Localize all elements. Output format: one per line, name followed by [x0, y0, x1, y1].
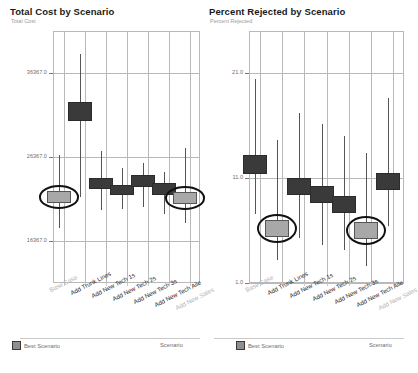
y-axis-tick-mark [245, 178, 249, 179]
y-axis-tick-label: 36367.0 [5, 69, 47, 75]
category-reference-line [282, 31, 283, 283]
legend-best-scenario-label: Best Scenario [24, 343, 60, 349]
y-axis-tick-label: 21.0 [201, 69, 243, 75]
whisker-line [80, 54, 81, 197]
x-axis-tick-mark [148, 283, 149, 286]
x-axis-tick-mark [371, 283, 372, 286]
chart-title-total-cost: Total Cost by Scenario [10, 6, 114, 17]
chart-panel-percent-rejected: Percent Rejected by Scenario Percent Rej… [204, 0, 408, 373]
scenario-bar[interactable] [243, 155, 267, 174]
legend-best-scenario-label: Best Scenario [248, 343, 284, 349]
y-axis-tick-mark [49, 241, 53, 242]
y-axis-tick-mark [245, 73, 249, 74]
chart-subtitle-total-cost: Total Cost [11, 18, 35, 24]
whisker-line [344, 136, 345, 250]
x-axis-caption-right: Scenario [369, 342, 392, 348]
x-axis-tick-mark [190, 283, 191, 286]
y-axis-tick-mark [49, 73, 53, 74]
best-scenario-swatch-icon [12, 341, 21, 350]
chart-panel-total-cost: Total Cost by Scenario Total Cost 36367.… [0, 0, 204, 373]
x-axis-tick-mark [393, 283, 394, 286]
category-reference-line [64, 31, 65, 283]
category-reference-line [169, 31, 170, 283]
whisker-line [322, 124, 323, 245]
whisker-line [299, 113, 300, 238]
scenario-bar[interactable] [332, 196, 356, 213]
y-axis-tick-mark [49, 157, 53, 158]
highlight-ellipse [257, 214, 297, 243]
whisker-line [388, 98, 389, 226]
scenario-bar[interactable] [68, 102, 92, 120]
y-axis-tick-label: 16367.0 [5, 237, 47, 243]
whisker-line [366, 153, 367, 266]
y-axis-tick-label: 1.0 [201, 279, 243, 285]
category-reference-line [327, 31, 328, 283]
x-axis-tick-mark [127, 283, 128, 286]
whisker-line [255, 79, 256, 213]
legend-divider-left [20, 338, 200, 339]
scenario-bar[interactable] [376, 173, 400, 190]
category-reference-line [371, 31, 372, 283]
category-reference-line [304, 31, 305, 283]
legend-best-scenario-left[interactable]: Best Scenario [12, 341, 60, 350]
x-axis-tick-mark [349, 283, 350, 286]
x-axis-caption-left: Scenario [160, 342, 183, 348]
best-scenario-swatch-icon [236, 341, 245, 350]
category-reference-line [127, 31, 128, 283]
x-axis-tick-mark [169, 283, 170, 286]
category-reference-line [148, 31, 149, 283]
category-reference-line [349, 31, 350, 283]
highlight-ellipse [346, 216, 386, 245]
chart-subtitle-percent-rejected: Percent Rejected [210, 18, 252, 24]
chart-title-percent-rejected: Percent Rejected by Scenario [209, 6, 345, 17]
y-axis-tick-label: 26367.0 [5, 153, 47, 159]
highlight-ellipse [39, 185, 79, 209]
scenario-bar[interactable] [287, 178, 311, 195]
category-reference-line [106, 31, 107, 283]
category-reference-line [393, 31, 394, 283]
category-reference-line [85, 31, 86, 283]
footer-text [0, 357, 408, 373]
y-axis-tick-label: 11.0 [201, 174, 243, 180]
legend-divider-right [214, 338, 404, 339]
category-reference-line [190, 31, 191, 283]
scenario-bar[interactable] [310, 186, 334, 203]
legend-best-scenario-right[interactable]: Best Scenario [236, 341, 284, 350]
highlight-ellipse [165, 186, 205, 210]
x-axis-tick-mark [327, 283, 328, 286]
